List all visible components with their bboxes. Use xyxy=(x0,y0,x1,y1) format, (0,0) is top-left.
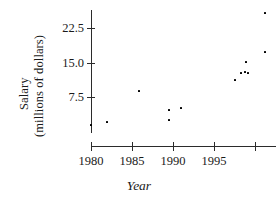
data-point xyxy=(240,72,243,75)
x-axis-title: Year xyxy=(0,178,278,194)
data-point xyxy=(245,61,248,64)
x-tick-label: 1995 xyxy=(191,155,237,168)
y-tick-label: 22.5 xyxy=(50,22,84,35)
data-point xyxy=(168,119,171,122)
data-point xyxy=(180,107,183,110)
x-tick-mark xyxy=(255,142,256,151)
y-tick-label: 15.0 xyxy=(50,57,84,70)
y-tick-mark xyxy=(87,63,95,64)
data-point xyxy=(247,72,250,75)
y-tick-mark xyxy=(87,28,95,29)
data-point xyxy=(168,109,171,112)
x-tick-label: 1980 xyxy=(68,155,114,168)
x-tick-mark xyxy=(173,142,174,151)
data-point xyxy=(264,51,267,54)
x-tick-label: 1990 xyxy=(150,155,196,168)
x-axis-line xyxy=(91,146,276,147)
x-tick-label: 1985 xyxy=(109,155,155,168)
y-tick-mark xyxy=(87,97,95,98)
data-point xyxy=(244,71,247,74)
data-point xyxy=(106,121,109,124)
data-point xyxy=(234,79,237,82)
data-point xyxy=(264,12,267,15)
plot-area: 22.515.07.5 1980198519901995 xyxy=(0,0,278,203)
y-tick-label: 7.5 xyxy=(50,91,84,104)
x-tick-mark xyxy=(132,142,133,151)
data-point xyxy=(138,90,141,93)
x-tick-mark xyxy=(214,142,215,151)
x-tick-mark xyxy=(91,142,92,151)
scatter-plot-figure: Salary (millions of dollars) 22.515.07.5… xyxy=(0,0,278,203)
